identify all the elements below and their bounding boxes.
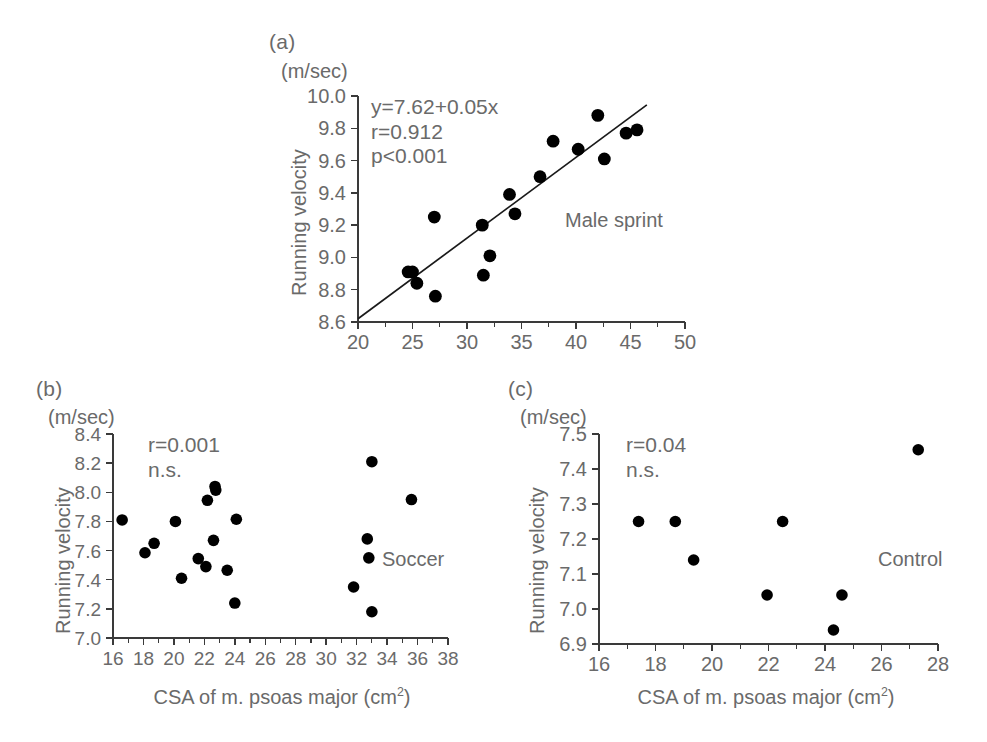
data-point: [366, 606, 378, 618]
x-tick-label: 18: [644, 653, 666, 675]
data-point: [912, 444, 924, 456]
x-tick-label: 45: [619, 331, 641, 353]
y-tick-label: 7.0: [75, 628, 101, 649]
data-point: [348, 581, 360, 593]
data-point: [410, 277, 423, 290]
data-point: [221, 564, 233, 576]
x-tick-label: 40: [565, 331, 587, 353]
data-point: [572, 143, 585, 156]
data-point: [200, 561, 212, 573]
data-point: [534, 170, 547, 183]
y-tick-label: 7.2: [559, 528, 587, 550]
panel-c-plot: 6.97.07.17.27.37.47.516182022242628: [500, 372, 987, 742]
x-tick-label: 25: [401, 331, 423, 353]
data-point: [633, 516, 645, 528]
y-tick-label: 7.0: [559, 598, 587, 620]
y-tick-label: 7.1: [559, 563, 587, 585]
y-tick-label: 9.0: [318, 246, 346, 268]
y-tick-label: 7.6: [75, 541, 101, 562]
y-tick-label: 8.0: [75, 482, 101, 503]
panel-a-plot: 8.68.89.09.29.49.69.810.020253035404550: [0, 0, 987, 372]
data-point: [688, 554, 700, 566]
y-tick-label: 7.4: [559, 458, 587, 480]
data-point: [620, 127, 633, 140]
y-tick-label: 9.2: [318, 214, 346, 236]
data-point: [631, 123, 644, 136]
data-point: [366, 456, 378, 468]
data-point: [836, 589, 848, 601]
data-point: [139, 547, 151, 559]
x-tick-label: 28: [927, 653, 949, 675]
x-tick-label: 30: [456, 331, 478, 353]
y-tick-label: 8.2: [75, 453, 101, 474]
x-tick-label: 26: [255, 648, 276, 669]
x-tick-label: 20: [163, 648, 184, 669]
y-tick-label: 9.8: [318, 117, 346, 139]
data-point: [669, 516, 681, 528]
data-point: [761, 589, 773, 601]
x-tick-label: 18: [133, 648, 154, 669]
data-point: [176, 572, 188, 584]
y-tick-label: 7.2: [75, 599, 101, 620]
data-point: [210, 484, 222, 496]
x-tick-label: 38: [437, 648, 458, 669]
x-tick-label: 20: [347, 331, 369, 353]
y-tick-label: 7.5: [559, 423, 587, 445]
regression-line: [358, 105, 647, 319]
x-tick-label: 20: [701, 653, 723, 675]
y-tick-label: 9.6: [318, 150, 346, 172]
data-point: [777, 516, 789, 528]
data-point: [406, 494, 418, 506]
data-point: [476, 219, 489, 232]
x-tick-label: 34: [377, 648, 399, 669]
data-point: [229, 597, 241, 609]
x-tick-label: 35: [510, 331, 532, 353]
x-tick-label: 28: [285, 648, 306, 669]
data-point: [202, 495, 214, 507]
x-tick-label: 24: [224, 648, 246, 669]
data-point: [547, 135, 560, 148]
data-point: [477, 269, 490, 282]
data-point: [231, 513, 243, 525]
data-point: [428, 211, 441, 224]
y-tick-label: 8.6: [318, 311, 346, 333]
data-point: [591, 109, 604, 122]
y-tick-label: 8.8: [318, 279, 346, 301]
panel-b-plot: 7.07.27.47.67.88.08.28.41618202224262830…: [0, 372, 500, 742]
x-tick-label: 16: [102, 648, 123, 669]
y-tick-label: 7.4: [75, 570, 102, 591]
x-tick-label: 30: [316, 648, 337, 669]
data-point: [509, 207, 522, 220]
data-point: [406, 266, 419, 279]
data-point: [429, 290, 442, 303]
x-tick-label: 22: [757, 653, 779, 675]
data-point: [828, 624, 840, 636]
y-tick-label: 8.4: [75, 424, 102, 445]
panel-a: (a) (m/sec) Running velocity y=7.62+0.05…: [0, 0, 987, 372]
data-point: [170, 516, 182, 528]
x-tick-label: 36: [407, 648, 428, 669]
panel-b: (b) (m/sec) Running velocity r=0.001 n.s…: [0, 372, 500, 742]
x-tick-label: 24: [814, 653, 836, 675]
axis-lines: [113, 434, 448, 638]
x-tick-label: 32: [346, 648, 367, 669]
data-point: [361, 533, 373, 545]
panel-c: (c) (m/sec) Running velocity r=0.04 n.s.…: [500, 372, 987, 742]
data-point: [483, 249, 496, 262]
data-point: [598, 153, 611, 166]
data-point: [208, 535, 220, 547]
data-point: [116, 514, 128, 526]
x-tick-label: 50: [674, 331, 696, 353]
y-tick-label: 7.8: [75, 511, 101, 532]
y-tick-label: 6.9: [559, 633, 587, 655]
y-tick-label: 10.0: [307, 85, 346, 107]
x-tick-label: 16: [588, 653, 610, 675]
y-tick-label: 9.4: [318, 182, 346, 204]
y-tick-label: 7.3: [559, 493, 587, 515]
data-point: [503, 188, 516, 201]
x-tick-label: 26: [870, 653, 892, 675]
x-tick-label: 22: [194, 648, 215, 669]
figure-root: (a) (m/sec) Running velocity y=7.62+0.05…: [0, 0, 987, 742]
axis-lines: [599, 434, 938, 644]
data-point: [148, 537, 160, 549]
